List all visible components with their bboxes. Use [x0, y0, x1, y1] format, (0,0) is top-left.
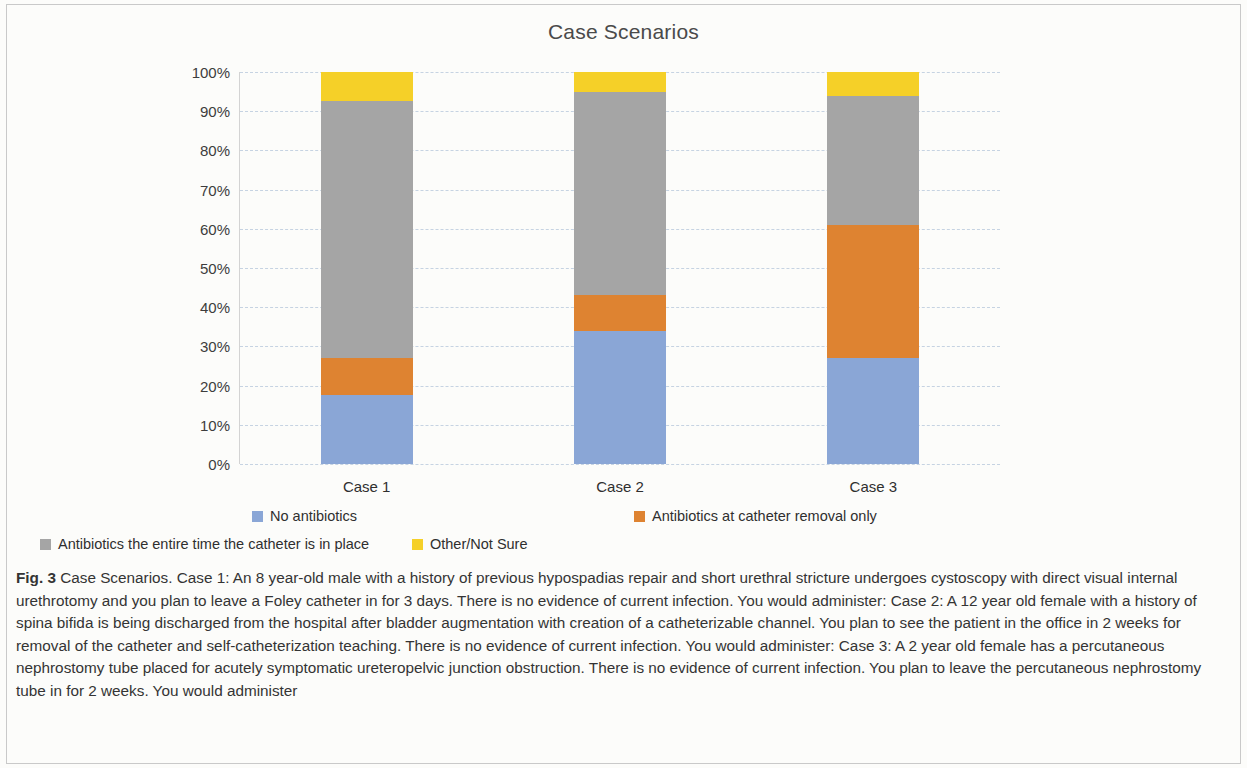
legend-item-other-not-sure[interactable]: Other/Not Sure: [412, 536, 528, 552]
y-tick-label: 100%: [192, 64, 230, 81]
y-tick-label: 90%: [200, 103, 230, 120]
chart-title: Case Scenarios: [12, 20, 1235, 44]
y-tick-label: 20%: [200, 377, 230, 394]
bar-column[interactable]: [321, 72, 413, 464]
chart-legend: No antibiotics Antibiotics at catheter r…: [12, 508, 1235, 564]
bar-segment[interactable]: [321, 358, 413, 395]
figure-caption-text: Case Scenarios. Case 1: An 8 year-old ma…: [16, 569, 1201, 699]
legend-row-1: No antibiotics Antibiotics at catheter r…: [12, 508, 1235, 534]
legend-item-no-antibiotics[interactable]: No antibiotics: [252, 508, 357, 524]
figure-caption: Fig. 3 Case Scenarios. Case 1: An 8 year…: [16, 567, 1229, 702]
bar-segment[interactable]: [574, 72, 666, 92]
legend-swatch-no-antibiotics: [252, 511, 263, 522]
page-border-right: [1240, 4, 1241, 764]
figure-page: Case Scenarios 0%10%20%30%40%50%60%70%80…: [0, 0, 1247, 768]
bar-segment[interactable]: [321, 72, 413, 101]
bar-segment[interactable]: [827, 72, 919, 96]
bar-segment[interactable]: [827, 96, 919, 225]
plot-area: 0%10%20%30%40%50%60%70%80%90%100% Case 1…: [240, 72, 1000, 464]
y-tick-label: 10%: [200, 416, 230, 433]
stacked-bars: [240, 72, 1000, 464]
bar-column[interactable]: [574, 72, 666, 464]
legend-row-2: Antibiotics the entire time the catheter…: [12, 536, 1235, 562]
x-tick-label: Case 1: [343, 478, 391, 495]
bar-segment[interactable]: [574, 331, 666, 464]
y-tick-label: 60%: [200, 220, 230, 237]
page-border-bottom: [6, 763, 1241, 764]
legend-label-removal-only: Antibiotics at catheter removal only: [652, 508, 877, 524]
legend-swatch-entire-time: [40, 539, 51, 550]
x-tick-label: Case 2: [596, 478, 644, 495]
page-border-left: [6, 4, 7, 764]
legend-label-other-not-sure: Other/Not Sure: [430, 536, 528, 552]
y-tick-label: 40%: [200, 299, 230, 316]
legend-swatch-removal-only: [634, 511, 645, 522]
y-tick-label: 50%: [200, 260, 230, 277]
page-border-top: [6, 4, 1241, 5]
bar-column[interactable]: [827, 72, 919, 464]
y-axis-tick-labels: 0%10%20%30%40%50%60%70%80%90%100%: [150, 72, 230, 464]
legend-label-entire-time: Antibiotics the entire time the catheter…: [58, 536, 369, 552]
bar-segment[interactable]: [321, 101, 413, 358]
legend-label-no-antibiotics: No antibiotics: [270, 508, 357, 524]
bar-segment[interactable]: [827, 358, 919, 464]
chart-figure: Case Scenarios 0%10%20%30%40%50%60%70%80…: [12, 8, 1235, 560]
legend-item-entire-time[interactable]: Antibiotics the entire time the catheter…: [40, 536, 369, 552]
y-tick-label: 80%: [200, 142, 230, 159]
y-tick-label: 0%: [208, 456, 230, 473]
bar-segment[interactable]: [574, 92, 666, 296]
bar-segment[interactable]: [827, 225, 919, 358]
bar-segment[interactable]: [321, 395, 413, 464]
legend-item-removal-only[interactable]: Antibiotics at catheter removal only: [634, 508, 877, 524]
y-tick-label: 30%: [200, 338, 230, 355]
legend-swatch-other-not-sure: [412, 539, 423, 550]
x-tick-label: Case 3: [850, 478, 898, 495]
bar-segment[interactable]: [574, 295, 666, 330]
figure-caption-label: Fig. 3: [16, 569, 56, 586]
y-tick-label: 70%: [200, 181, 230, 198]
x-axis-tick-labels: Case 1Case 2Case 3: [240, 464, 1000, 500]
